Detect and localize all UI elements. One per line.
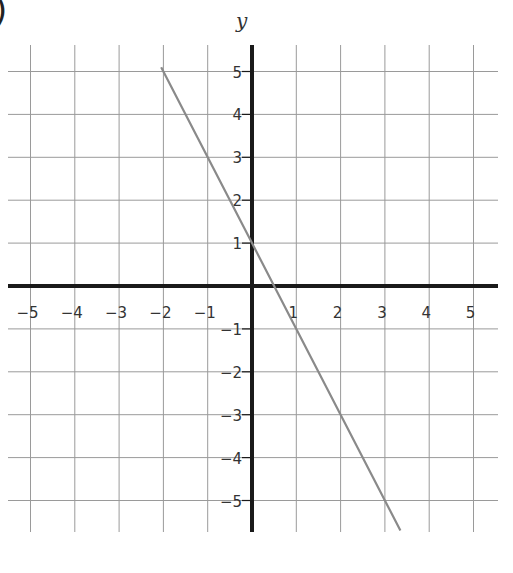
y-tick-label: 5 [232, 64, 242, 82]
y-tick-label: −1 [220, 321, 242, 339]
x-tick-label: 3 [377, 304, 387, 322]
x-tick-label: 2 [333, 304, 343, 322]
y-axis-title: y [235, 9, 248, 33]
x-tick-label: 4 [421, 304, 431, 322]
plot-line [161, 67, 400, 530]
y-tick-label: −4 [220, 450, 242, 468]
x-tick-label: −3 [105, 304, 127, 322]
y-tick-label: 4 [232, 106, 242, 124]
x-tick-label: −5 [16, 304, 38, 322]
y-tick-label: 1 [232, 235, 242, 253]
data-line [161, 67, 400, 530]
y-tick-label: 3 [232, 149, 242, 167]
axes [8, 45, 498, 532]
x-tick-label: 5 [466, 304, 476, 322]
y-tick-label: −3 [220, 407, 242, 425]
x-tick-label: −2 [149, 304, 171, 322]
y-tick-label: −2 [220, 364, 242, 382]
x-tick-label: −4 [61, 304, 83, 322]
x-tick-label: 1 [289, 304, 299, 322]
chart: ) −5−4−3−2−11234554321−1−2−3−4−5 y [0, 0, 513, 573]
part-marker: ) [0, 0, 7, 30]
x-tick-label: −1 [194, 304, 216, 322]
y-tick-label: −5 [220, 493, 242, 511]
